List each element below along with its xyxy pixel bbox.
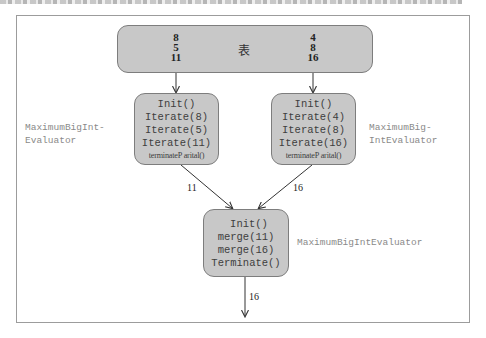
right-evaluator-label: MaximumBig- IntEvaluator [369, 122, 437, 147]
clipped-caption-text [0, 0, 462, 4]
right-to-merge-value: 16 [293, 183, 303, 193]
merge-output-value: 16 [249, 292, 259, 302]
table-left-value-3: 11 [164, 52, 188, 62]
table-right-value-3: 16 [301, 52, 325, 62]
left-call-terminate-partial: terminateP arital() [135, 150, 218, 162]
left-evaluator-label: MaximumBigInt- Evaluator [25, 122, 105, 147]
left-call-iterate-3: Iterate(11) [135, 137, 218, 149]
right-call-iterate-2: Iterate(8) [272, 124, 355, 136]
merge-call-terminate: Terminate() [204, 257, 288, 269]
left-call-iterate-2: Iterate(5) [135, 124, 218, 136]
merge-call-init: Init() [204, 218, 288, 230]
right-call-terminate-partial: terminateP arital() [272, 150, 355, 162]
merge-call-merge-1: merge(11) [204, 231, 288, 243]
left-call-iterate-1: Iterate(8) [135, 111, 218, 123]
merge-evaluator-label: MaximumBigIntEvaluator [297, 237, 422, 250]
left-evaluator-node: Init() Iterate(8) Iterate(5) Iterate(11)… [134, 93, 219, 165]
left-call-init: Init() [135, 98, 218, 110]
right-evaluator-node: Init() Iterate(4) Iterate(8) Iterate(16)… [271, 93, 356, 165]
table-label: 表 [238, 41, 250, 58]
right-call-init: Init() [272, 98, 355, 110]
right-call-iterate-1: Iterate(4) [272, 111, 355, 123]
left-to-merge-value: 11 [187, 183, 197, 193]
right-call-iterate-3: Iterate(16) [272, 137, 355, 149]
merge-evaluator-node: Init() merge(11) merge(16) Terminate() [203, 209, 289, 277]
merge-call-merge-2: merge(16) [204, 244, 288, 256]
